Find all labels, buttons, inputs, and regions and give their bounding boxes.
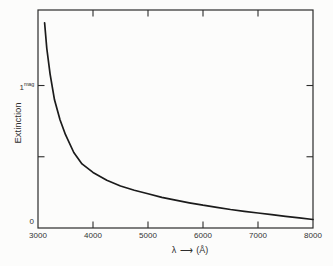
extinction-chart	[0, 0, 333, 266]
x-tick-label: 4000	[84, 231, 102, 240]
mag-superscript: mag	[24, 81, 34, 87]
x-axis-title: λ⟶(Å)	[120, 245, 260, 256]
axis-ticks	[38, 10, 313, 228]
y-axis-title: Extinction	[12, 83, 24, 163]
angstrom-unit: (Å)	[196, 245, 208, 255]
x-tick-label: 8000	[304, 231, 322, 240]
x-axis-tick-labels: 300040005000600070008000	[0, 231, 333, 241]
right-arrow-icon: ⟶	[176, 245, 196, 255]
x-tick-label: 3000	[29, 231, 47, 240]
x-tick-label: 6000	[194, 231, 212, 240]
extinction-curve	[45, 23, 313, 220]
x-tick-label: 7000	[249, 231, 267, 240]
extinction-vs-wavelength-figure: 1mag 0 300040005000600070008000 Extincti…	[0, 0, 333, 266]
plot-border	[38, 10, 313, 228]
x-tick-label: 5000	[139, 231, 157, 240]
y-tick-label-0: 0	[0, 217, 34, 227]
